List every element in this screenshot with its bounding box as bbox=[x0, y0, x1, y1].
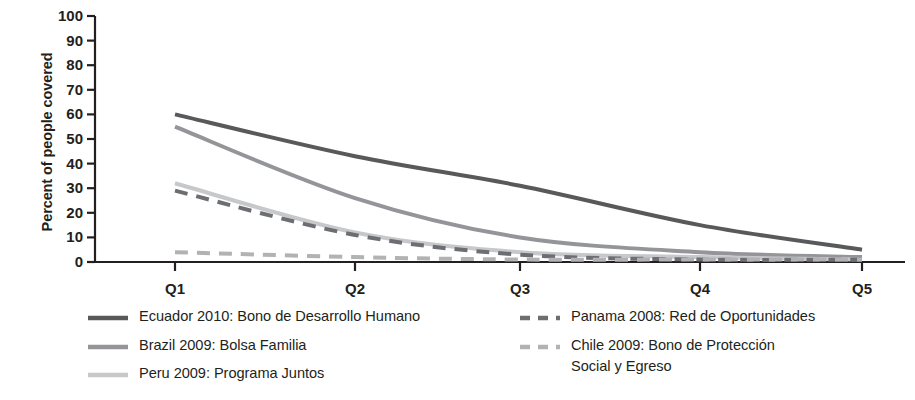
y-tick-label: 20 bbox=[31, 205, 83, 220]
legend-item-label: Chile 2009: Bono de Protección Social y … bbox=[571, 335, 775, 377]
legend-item-label: Panama 2008: Red de Oportunidades bbox=[571, 306, 815, 327]
legend-swatch-ecuador bbox=[88, 306, 128, 326]
legend-item[interactable]: Peru 2009: Programa Juntos bbox=[88, 363, 518, 385]
x-tick-label: Q2 bbox=[325, 281, 385, 296]
x-axis-ticks bbox=[175, 262, 862, 271]
y-tick-label: 10 bbox=[31, 229, 83, 244]
series-line-2 bbox=[175, 183, 862, 259]
x-tick-label: Q3 bbox=[490, 281, 550, 296]
y-tick-label: 90 bbox=[31, 33, 83, 48]
legend-swatch-peru bbox=[88, 363, 128, 383]
series-line-1 bbox=[175, 127, 862, 257]
legend-item[interactable]: Ecuador 2010: Bono de Desarrollo Humano bbox=[88, 306, 518, 328]
chart-canvas bbox=[0, 0, 915, 300]
legend-item[interactable]: Chile 2009: Bono de Protección Social y … bbox=[520, 335, 915, 377]
legend-item[interactable]: Brazil 2009: Bolsa Familia bbox=[88, 335, 518, 357]
legend-column-left: Ecuador 2010: Bono de Desarrollo HumanoB… bbox=[88, 306, 518, 392]
axis-lines bbox=[95, 16, 905, 262]
y-tick-label: 0 bbox=[31, 254, 83, 269]
y-tick-label: 60 bbox=[31, 106, 83, 121]
legend-item-label: Brazil 2009: Bolsa Familia bbox=[139, 335, 306, 356]
y-tick-label: 30 bbox=[31, 180, 83, 195]
data-series-group bbox=[175, 114, 862, 260]
y-tick-label: 80 bbox=[31, 57, 83, 72]
x-tick-label: Q4 bbox=[670, 281, 730, 296]
y-tick-label: 50 bbox=[31, 131, 83, 146]
plot-area: 1009080706050403020100 Q1Q2Q3Q4Q5 bbox=[0, 0, 915, 300]
series-line-0 bbox=[175, 114, 862, 249]
chart-figure: Percent of people covered 10090807060504… bbox=[0, 0, 915, 400]
legend-swatch-brazil bbox=[88, 335, 128, 355]
legend-swatch-chile bbox=[520, 335, 560, 355]
legend-item[interactable]: Panama 2008: Red de Oportunidades bbox=[520, 306, 915, 328]
legend-item-label: Peru 2009: Programa Juntos bbox=[139, 363, 324, 384]
y-tick-label: 70 bbox=[31, 82, 83, 97]
series-line-3 bbox=[175, 191, 862, 260]
legend-item-label: Ecuador 2010: Bono de Desarrollo Humano bbox=[139, 306, 420, 327]
x-tick-label: Q5 bbox=[832, 281, 892, 296]
x-tick-label: Q1 bbox=[145, 281, 205, 296]
chart-legend: Ecuador 2010: Bono de Desarrollo HumanoB… bbox=[0, 306, 915, 400]
y-tick-label: 40 bbox=[31, 156, 83, 171]
legend-swatch-panama bbox=[520, 306, 560, 326]
y-tick-label: 100 bbox=[31, 8, 83, 23]
legend-column-right: Panama 2008: Red de OportunidadesChile 2… bbox=[520, 306, 915, 383]
y-axis-ticks bbox=[87, 16, 95, 262]
